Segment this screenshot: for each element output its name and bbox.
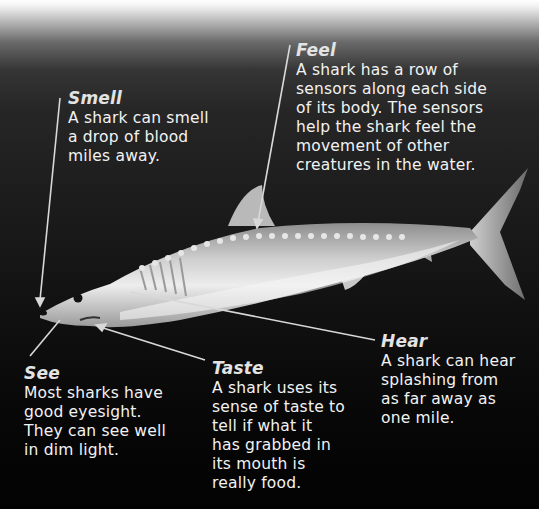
label-taste-line-6: really food.	[212, 474, 345, 493]
label-see-line-2: good eyesight.	[24, 403, 166, 422]
label-feel-line-4: help the shark feel the	[296, 118, 487, 137]
label-hear-line-2: splashing from	[381, 371, 515, 390]
label-see-title: See	[24, 364, 166, 383]
label-smell-line-3: miles away.	[68, 147, 209, 166]
label-hear-title: Hear	[381, 332, 515, 351]
label-taste-title: Taste	[212, 359, 345, 378]
label-feel-line-6: creatures in the water.	[296, 156, 487, 175]
label-smell: Smell A shark can smell a drop of blood …	[68, 89, 209, 166]
label-hear-line-3: as far away as	[381, 390, 515, 409]
label-see-line-3: They can see well	[24, 422, 166, 441]
label-hear-line-4: one mile.	[381, 409, 515, 428]
shark-senses-illustration: Smell A shark can smell a drop of blood …	[0, 0, 539, 509]
label-feel-title: Feel	[296, 41, 487, 60]
label-taste-line-3: tell if what it	[212, 417, 345, 436]
label-hear-line-1: A shark can hear	[381, 352, 515, 371]
label-taste: Taste A shark uses its sense of taste to…	[212, 359, 345, 493]
label-feel: Feel A shark has a row of sensors along …	[296, 41, 487, 175]
label-hear: Hear A shark can hear splashing from as …	[381, 332, 515, 428]
label-taste-line-4: has grabbed in	[212, 436, 345, 455]
label-feel-line-5: movement of other	[296, 137, 487, 156]
label-see-line-1: Most sharks have	[24, 384, 166, 403]
label-smell-line-1: A shark can smell	[68, 109, 209, 128]
label-feel-line-3: of its body. The sensors	[296, 99, 487, 118]
label-see-line-4: in dim light.	[24, 441, 166, 460]
label-feel-line-2: sensors along each side	[296, 80, 487, 99]
label-feel-line-1: A shark has a row of	[296, 61, 487, 80]
label-see: See Most sharks have good eyesight. They…	[24, 364, 166, 460]
label-taste-line-5: its mouth is	[212, 455, 345, 474]
label-taste-line-1: A shark uses its	[212, 379, 345, 398]
label-smell-title: Smell	[68, 89, 209, 108]
label-taste-line-2: sense of taste to	[212, 398, 345, 417]
label-smell-line-2: a drop of blood	[68, 128, 209, 147]
